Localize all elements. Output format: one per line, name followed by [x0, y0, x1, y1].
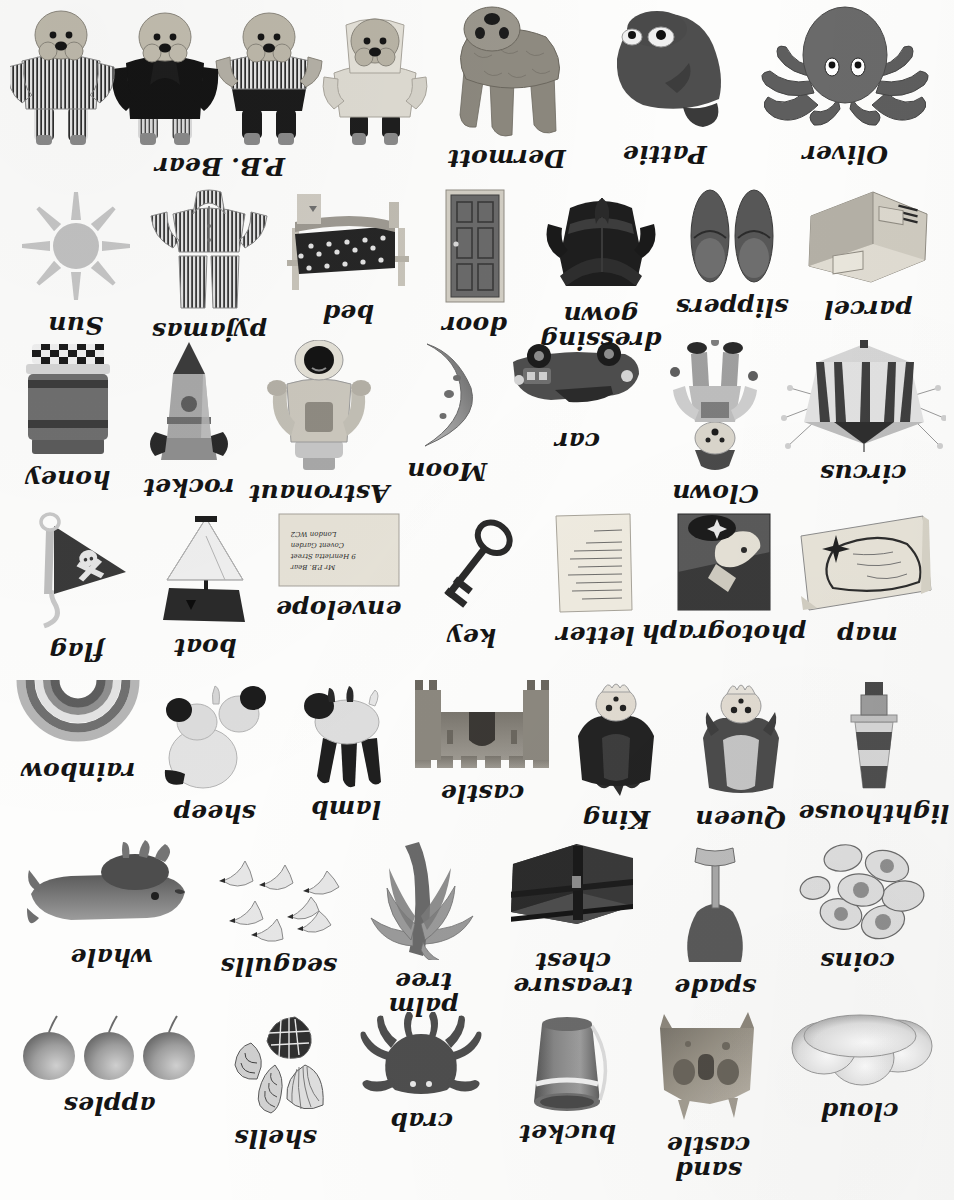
word-row-2: coins [0, 840, 954, 1000]
word-cell-lamb[interactable]: lamb [283, 680, 410, 822]
word-cell-crab[interactable]: crab [352, 1012, 492, 1134]
map-picture [797, 512, 937, 614]
word-cell-cloud[interactable]: cloud [785, 1012, 935, 1124]
crab-picture [352, 1012, 492, 1100]
dressing-gown-picture [538, 188, 664, 294]
word-label: map [837, 623, 898, 648]
word-label: Clown [672, 481, 759, 506]
word-cell-pb-bear[interactable]: P.B. Bear [10, 5, 430, 179]
word-cell-map[interactable]: map [792, 512, 942, 648]
word-cell-clown[interactable]: Clown [650, 340, 780, 506]
word-cell-flag[interactable]: flag [12, 512, 142, 664]
lamb-picture [291, 680, 401, 788]
word-cell-key[interactable]: key [412, 512, 532, 650]
word-label: rainbow [21, 759, 135, 784]
apples-picture [20, 1012, 200, 1084]
boat-picture [155, 512, 255, 626]
word-label: crab [390, 1109, 453, 1134]
word-cell-oliver[interactable]: Oliver [746, 5, 944, 167]
word-cell-photograph[interactable]: photograph [659, 512, 789, 646]
word-cell-bucket[interactable]: bucket [503, 1012, 633, 1146]
word-label: pyjamas [152, 319, 267, 344]
word-cell-boat[interactable]: boat [145, 512, 265, 660]
word-label: circus [820, 461, 907, 486]
word-cell-apples[interactable]: apples [20, 1012, 200, 1118]
word-label: palm tree [356, 969, 491, 1019]
word-label: shells [234, 1126, 316, 1151]
word-cell-car[interactable]: car [505, 340, 650, 454]
coins-picture [787, 840, 927, 940]
word-label: boat [174, 635, 237, 660]
word-label: Oliver [802, 142, 888, 167]
word-cell-whale[interactable]: whale [22, 840, 202, 970]
word-cell-pattie[interactable]: Pattie [583, 5, 746, 167]
word-cell-palm-tree[interactable]: palm tree [356, 840, 491, 1019]
word-cell-coins[interactable]: coins [782, 840, 932, 974]
bed-picture [283, 188, 413, 292]
clown-picture [665, 340, 765, 472]
word-label: lighthouse [798, 801, 949, 826]
word-label: Queen [695, 807, 786, 832]
word-label: Dermott [447, 146, 565, 171]
word-cell-parcel[interactable]: parcel [793, 188, 943, 322]
word-cell-slippers[interactable]: slippers [672, 188, 792, 320]
lighthouse-picture [839, 680, 909, 792]
word-cell-door[interactable]: door [420, 188, 530, 338]
word-label: P.B. Bear [155, 154, 285, 179]
word-cell-seagulls[interactable]: seagulls [209, 840, 349, 979]
word-cell-letter[interactable]: letter [535, 512, 655, 648]
key-picture [422, 512, 522, 616]
word-cell-queen[interactable]: Queen [677, 680, 804, 832]
word-label: coins [820, 949, 895, 974]
word-label: bed [323, 301, 374, 326]
word-cell-spade[interactable]: spade [655, 840, 775, 1000]
word-row-5: circus [0, 340, 954, 505]
dermott-dog-picture [442, 5, 572, 137]
word-cell-dressing-gown[interactable]: dressing gown [531, 188, 671, 353]
word-cell-astronaut[interactable]: Astronaut [249, 340, 389, 506]
shells-picture [218, 1012, 333, 1117]
word-cell-rocket[interactable]: rocket [129, 340, 249, 500]
word-label: envelope [276, 597, 402, 622]
word-label: slippers [676, 295, 789, 320]
word-cell-moon[interactable]: Moon [390, 340, 505, 484]
honey-jar-picture [22, 340, 114, 458]
word-label: Astronaut [249, 481, 390, 506]
sun-picture [18, 188, 134, 304]
sheep-picture [155, 680, 275, 792]
word-cell-shells[interactable]: shells [211, 1012, 341, 1151]
palm-tree-picture [363, 840, 483, 960]
word-row-1: cloud sand castle [0, 1012, 954, 1182]
scanned-page: cloud sand castle [0, 0, 954, 1200]
word-label: castle [441, 781, 525, 806]
word-cell-sheep[interactable]: sheep [146, 680, 282, 826]
word-cell-treasure-chest[interactable]: treasure chest [498, 840, 648, 999]
door-picture [444, 188, 506, 304]
word-label: King [583, 807, 651, 832]
word-label: lamb [311, 797, 381, 822]
word-label: sheep [173, 801, 256, 826]
queen-picture [693, 680, 789, 798]
word-label: Sun [48, 313, 103, 338]
flag-picture [22, 512, 132, 630]
word-cell-envelope[interactable]: envelope Mr P.B. Bear 9 Henrietta Street… [269, 512, 409, 622]
word-cell-sand-castle[interactable]: sand castle [644, 1012, 774, 1183]
word-cell-circus[interactable]: circus [781, 340, 946, 486]
astronaut-picture [265, 340, 373, 472]
word-label: door [442, 313, 507, 338]
word-label: car [555, 429, 600, 454]
word-cell-dermott[interactable]: Dermott [430, 5, 583, 171]
seagulls-picture [209, 840, 349, 945]
word-cell-lighthouse[interactable]: lighthouse [804, 680, 944, 826]
rainbow-picture [13, 680, 143, 750]
word-cell-honey[interactable]: honey [8, 340, 128, 492]
word-cell-king[interactable]: King [556, 680, 678, 832]
pb-bear-picture [10, 5, 430, 145]
word-label: bucket [519, 1121, 616, 1146]
king-picture [568, 680, 664, 798]
word-cell-pyjamas[interactable]: pyjamas [142, 188, 277, 344]
word-cell-rainbow[interactable]: rainbow [10, 680, 146, 784]
word-cell-sun[interactable]: Sun [11, 188, 141, 338]
word-cell-castle[interactable]: castle [409, 680, 555, 806]
word-cell-bed[interactable]: bed [278, 188, 418, 326]
